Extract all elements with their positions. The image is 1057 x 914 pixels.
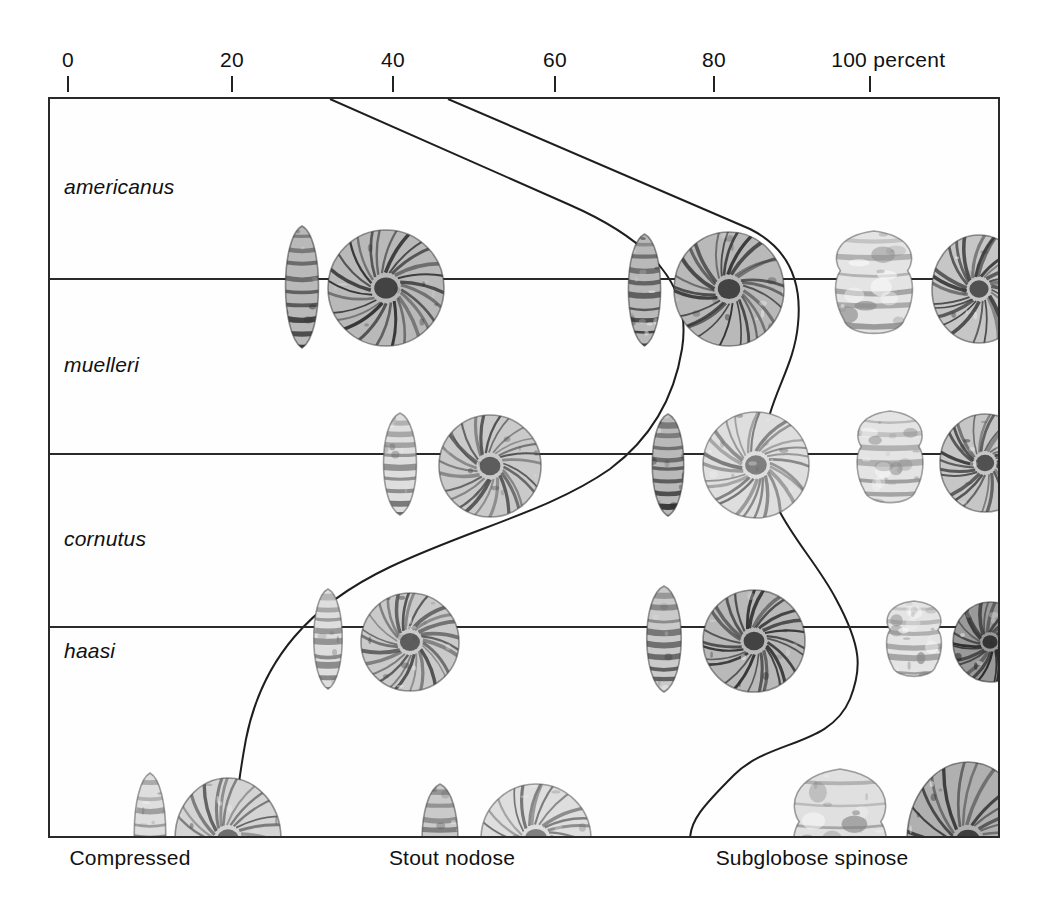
species-label-americanus: americanus [64, 175, 175, 199]
fossil-specimen-muelleri-nodose [853, 409, 927, 513]
fossil-specimen-cornutus-nodose [883, 599, 945, 685]
fossil-specimen-haasi-lateral [128, 772, 172, 838]
fossil-specimen-haasi-coiled [906, 761, 1000, 838]
fossil-specimen-haasi-nodose [788, 767, 892, 838]
fossil-specimen-muelleri-lateral [646, 413, 690, 517]
axis-tick-label-40: 40 [381, 48, 405, 72]
fossil-specimen-cornutus-coiled [360, 592, 460, 692]
fossil-specimen-americanus-coiled [673, 231, 785, 347]
species-label-muelleri: muelleri [64, 353, 139, 377]
axis-tick-mark-100 [869, 76, 871, 92]
fossil-specimen-americanus-coiled [327, 229, 445, 347]
fossil-specimen-muelleri-lateral [377, 412, 423, 516]
fossil-specimen-haasi-lateral [415, 783, 465, 838]
zone-label-compressed: Compressed [69, 846, 190, 870]
fossil-specimen-cornutus-coiled [702, 589, 806, 693]
axis-tick-label-80: 80 [702, 48, 726, 72]
species-label-cornutus: cornutus [64, 527, 146, 551]
axis-tick-mark-20 [231, 76, 233, 92]
axis-tick-mark-80 [713, 76, 715, 92]
plot-frame: americanusmuellericornutushaasi [48, 97, 1000, 838]
axis-tick-mark-0 [67, 76, 69, 92]
axis-tick-label-0: 0 [62, 48, 74, 72]
fossil-specimen-americanus-coiled [931, 234, 1000, 344]
fossil-specimen-haasi-coiled [480, 783, 592, 838]
axis-tick-label-20: 20 [220, 48, 244, 72]
axis-tick-label-60: 60 [543, 48, 567, 72]
fossil-specimen-cornutus-lateral [640, 585, 688, 693]
zone-label-stout-nodose: Stout nodose [389, 846, 515, 870]
row-divider-haasi [50, 626, 998, 628]
fossil-specimen-muelleri-coiled [702, 411, 810, 519]
percent-axis: 020406080100 percent [0, 0, 1057, 97]
fossil-specimen-americanus-nodose [831, 229, 917, 345]
axis-tick-label-100: 100 percent [831, 48, 945, 72]
fossil-specimen-haasi-coiled [174, 777, 282, 838]
fossil-specimen-muelleri-coiled [438, 414, 542, 518]
fossil-specimen-americanus-lateral [279, 225, 325, 349]
fossil-specimen-cornutus-lateral [308, 588, 348, 690]
species-label-haasi: haasi [64, 639, 115, 663]
fossil-specimen-americanus-lateral [622, 233, 667, 347]
zone-label-subglobose-spinose: Subglobose spinose [716, 846, 909, 870]
morphology-distribution-figure: 020406080100 percent americanusmuelleric… [0, 0, 1057, 914]
fossil-specimen-cornutus-coiled [952, 601, 1000, 683]
axis-tick-mark-40 [392, 76, 394, 92]
fossil-specimen-muelleri-coiled [939, 413, 1000, 513]
axis-tick-mark-60 [554, 76, 556, 92]
